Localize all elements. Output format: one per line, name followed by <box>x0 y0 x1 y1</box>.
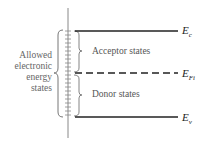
ev-label: Ev <box>182 111 192 126</box>
efi-label: EFi <box>182 67 195 82</box>
left-label-line-2: electronic <box>2 61 52 72</box>
left-label-line-1: Allowed <box>2 50 52 61</box>
donor-states-label: Donor states <box>92 89 140 100</box>
acceptor-states-label: Acceptor states <box>92 46 150 57</box>
allowed-states-brace <box>54 30 63 117</box>
donor-brace <box>74 75 82 116</box>
allowed-states-label: Allowed electronic energy states <box>2 50 52 94</box>
left-label-line-3: energy <box>2 72 52 83</box>
left-label-line-4: states <box>2 83 52 94</box>
acceptor-brace <box>74 31 82 72</box>
ec-label: Ec <box>182 24 192 39</box>
